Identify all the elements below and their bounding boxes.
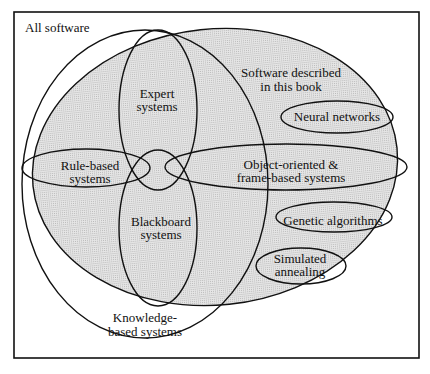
knowledge-based-label-line2: based systems — [108, 324, 182, 339]
all-software-label: All software — [25, 20, 90, 35]
blackboard-label-line2: systems — [140, 227, 181, 242]
book-label-line2: in this book — [260, 79, 322, 94]
simulated-label-line2: annealing — [275, 264, 326, 279]
genetic-algorithms-label: Genetic algorithms — [283, 213, 382, 228]
venn-diagram: All software Software described in this … — [0, 0, 430, 374]
object-oriented-label-line2: frame-based systems — [237, 170, 346, 185]
rule-based-label-line2: systems — [69, 171, 110, 186]
neural-networks-label: Neural networks — [294, 109, 380, 124]
expert-label-line2: systems — [136, 99, 177, 114]
book-label-line1: Software described — [241, 65, 341, 80]
knowledge-based-label-line1: Knowledge- — [113, 310, 177, 325]
